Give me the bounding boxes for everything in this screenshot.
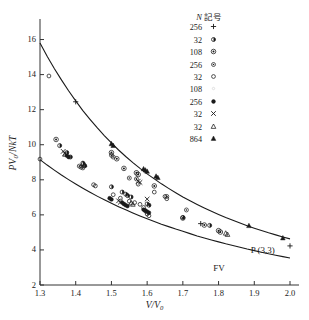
symbol-double-circle xyxy=(136,172,141,177)
curve-FV xyxy=(40,160,290,258)
open-circle-icon xyxy=(209,72,218,81)
x-tick-1.8: 1.8 xyxy=(207,288,231,298)
curve-label-FV: FV xyxy=(213,263,225,273)
legend-row: 108 xyxy=(176,47,224,59)
symbol-cross xyxy=(211,111,216,116)
symbol-open-circle xyxy=(138,202,142,206)
x-tick-1.4: 1.4 xyxy=(64,288,88,298)
x-tick-1.9: 1.9 xyxy=(242,288,266,298)
symbol-open-circle xyxy=(211,75,215,79)
double-circle-icon xyxy=(209,47,218,56)
symbol-small-double-circle xyxy=(127,176,131,180)
legend-row: 864 xyxy=(176,134,224,146)
legend-symbol-filled-circle xyxy=(202,97,224,109)
legend-row: 256 xyxy=(176,22,224,34)
open-triangle-icon xyxy=(209,122,218,131)
filled-triangle-icon xyxy=(209,134,218,143)
legend-n-value: 32 xyxy=(176,35,202,47)
legend-symbol-filled-triangle xyxy=(202,134,224,146)
legend-n-value: 864 xyxy=(176,134,202,146)
legend-symbol-cross xyxy=(202,109,224,121)
symbol-double-circle xyxy=(54,137,59,142)
symbol-open-circle xyxy=(47,74,51,78)
legend-n-value: 108 xyxy=(176,84,202,96)
symbol-filled-circle xyxy=(147,211,151,215)
legend-symbol-half-filled-circle xyxy=(202,35,224,47)
symbol-filled-circle xyxy=(211,99,215,103)
small-double-circle-icon xyxy=(209,60,218,69)
theory-curves xyxy=(40,43,290,258)
data-points xyxy=(38,74,293,248)
symbol-half-filled-circle xyxy=(211,37,215,41)
x-axis-label: V/V0 xyxy=(0,300,309,310)
legend-symbol-faint-dot xyxy=(202,84,224,96)
y-tick-4: 4 xyxy=(16,244,36,254)
legend-header-n: N xyxy=(176,12,202,22)
legend-row: 256 xyxy=(176,97,224,109)
symbol-open-triangle xyxy=(211,124,216,128)
y-tick-10: 10 xyxy=(16,139,36,149)
plus-icon xyxy=(209,22,218,31)
symbol-faint-dot xyxy=(212,88,214,90)
symbol-small-double-circle xyxy=(211,62,215,66)
symbol-plus xyxy=(287,243,292,248)
curve-label-P(3,3): P (3,3) xyxy=(251,245,275,255)
filled-circle-icon xyxy=(209,97,218,106)
y-tick-16: 16 xyxy=(16,34,36,44)
symbol-double-circle xyxy=(202,223,207,228)
legend-row: 32 xyxy=(176,72,224,84)
legend-n-value: 32 xyxy=(176,109,202,121)
symbol-plus xyxy=(210,24,215,29)
symbol-filled-triangle xyxy=(211,136,216,140)
legend-n-value: 256 xyxy=(176,60,202,72)
faint-dot-icon xyxy=(209,84,218,93)
x-tick-2.0: 2.0 xyxy=(278,288,302,298)
symbol-double-circle xyxy=(152,184,157,189)
curve-P(3,3) xyxy=(40,43,290,239)
y-tick-14: 14 xyxy=(16,69,36,79)
legend-symbol-double-circle xyxy=(202,47,224,59)
legend-row: 32 xyxy=(176,109,224,121)
half-filled-circle-icon xyxy=(209,35,218,44)
legend-n-value: 32 xyxy=(176,122,202,134)
symbol-open-circle xyxy=(152,190,156,194)
x-tick-1.3: 1.3 xyxy=(28,288,52,298)
legend: N 記号 25632108256321082563232864 xyxy=(176,12,224,146)
symbol-cross xyxy=(145,197,150,202)
legend-table: N 記号 25632108256321082563232864 xyxy=(176,12,224,146)
y-tick-6: 6 xyxy=(16,209,36,219)
symbol-open-circle xyxy=(111,193,115,197)
symbol-double-circle xyxy=(218,230,223,235)
legend-n-value: 108 xyxy=(176,47,202,59)
legend-n-value: 256 xyxy=(176,22,202,34)
legend-n-value: 256 xyxy=(176,97,202,109)
y-tick-8: 8 xyxy=(16,174,36,184)
x-tick-1.7: 1.7 xyxy=(171,288,195,298)
legend-row: 32 xyxy=(176,35,224,47)
symbol-half-filled-circle xyxy=(58,144,62,148)
cross-icon xyxy=(209,109,218,118)
legend-row: 32 xyxy=(176,122,224,134)
symbol-filled-circle xyxy=(110,198,114,202)
chart-figure: PV0/NkT V/V0 246810121416 1.31.41.51.61.… xyxy=(0,0,309,320)
legend-symbol-small-double-circle xyxy=(202,60,224,72)
legend-body: 25632108256321082563232864 xyxy=(176,22,224,146)
symbol-half-filled-circle xyxy=(129,195,133,199)
legend-row: 108 xyxy=(176,84,224,96)
plot-canvas xyxy=(0,0,309,320)
legend-symbol-open-circle xyxy=(202,72,224,84)
legend-row: 256 xyxy=(176,60,224,72)
symbol-half-filled-circle xyxy=(208,223,212,227)
symbol-small-double-circle xyxy=(184,208,188,212)
legend-header-row: N 記号 xyxy=(176,12,224,22)
x-tick-1.6: 1.6 xyxy=(135,288,159,298)
legend-n-value: 32 xyxy=(176,72,202,84)
symbol-double-circle xyxy=(122,166,127,171)
legend-symbol-plus xyxy=(202,22,224,34)
x-tick-1.5: 1.5 xyxy=(99,288,123,298)
legend-header-symbol: 記号 xyxy=(202,12,224,22)
symbol-double-circle xyxy=(211,49,216,54)
symbol-half-filled-circle xyxy=(109,185,113,189)
y-tick-12: 12 xyxy=(16,104,36,114)
legend-symbol-open-triangle xyxy=(202,122,224,134)
